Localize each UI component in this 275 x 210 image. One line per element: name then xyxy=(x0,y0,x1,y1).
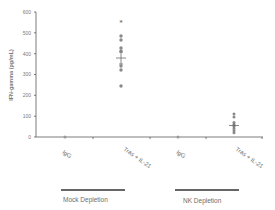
y-tick-label: 100 xyxy=(23,113,32,119)
x-category-labels: IgG Tras + IL-21 IgG Tras + IL-21 xyxy=(61,146,264,170)
series-mock-tras-il21: * xyxy=(116,19,126,88)
group-label-mock: Mock Depletion xyxy=(63,196,108,204)
y-axis-ticks: 0 100 200 300 400 500 600 xyxy=(23,9,32,140)
scatter-chart: IFN-gamma (pg/mL) 0 100 200 300 400 500 … xyxy=(0,0,275,210)
svg-text:*: * xyxy=(119,19,123,27)
x-label-nk-igg: IgG xyxy=(175,149,187,160)
group-label-nk: NK Depletion xyxy=(183,197,222,205)
x-label-nk-tras: Tras + IL-21 xyxy=(234,146,264,170)
mean-sem-mock xyxy=(116,52,126,64)
x-label-mock-igg: IgG xyxy=(61,149,73,160)
y-tick-label: 200 xyxy=(23,92,32,98)
y-axis-label: IFN-gamma (pg/mL) xyxy=(8,49,14,101)
y-tick-label: 300 xyxy=(23,71,32,77)
group-mock-depletion: Mock Depletion xyxy=(61,190,125,204)
y-tick-label: 0 xyxy=(28,134,31,140)
mean-sem-nk xyxy=(229,123,239,128)
group-nk-depletion: NK Depletion xyxy=(175,190,239,205)
x-label-mock-tras: Tras + IL-21 xyxy=(122,146,152,170)
series-nk-igg xyxy=(177,136,180,139)
y-tick-label: 500 xyxy=(23,30,32,36)
series-nk-tras-il21 xyxy=(229,113,239,135)
y-tick-label: 400 xyxy=(23,51,32,57)
axes xyxy=(34,12,263,139)
series-mock-igg xyxy=(64,136,67,139)
y-tick-label: 600 xyxy=(23,9,32,15)
